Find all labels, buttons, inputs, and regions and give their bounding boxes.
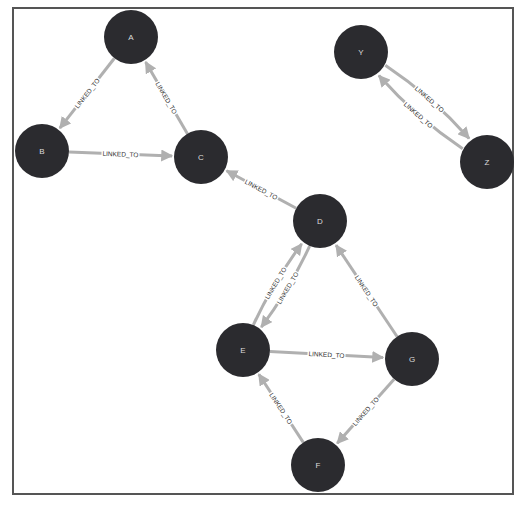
- node-label: G: [409, 355, 415, 364]
- node-label: E: [240, 346, 245, 355]
- edge-E-G[interactable]: LINKED_TO: [270, 349, 383, 359]
- edge-G-F[interactable]: LINKED_TO: [337, 379, 394, 443]
- node-B[interactable]: B: [15, 124, 69, 178]
- node-label: F: [316, 461, 321, 470]
- edge-F-E[interactable]: LINKED_TO: [259, 374, 303, 442]
- node-Y[interactable]: Y: [334, 25, 388, 79]
- edge-label: LINKED_TO: [154, 81, 179, 116]
- node-Z[interactable]: Z: [460, 135, 514, 189]
- edge-label: LINKED_TO: [267, 391, 293, 426]
- edge-label: LINKED_TO: [243, 178, 279, 202]
- edge-label: LINKED_TO: [353, 274, 380, 308]
- edge-E-D[interactable]: LINKED_TO: [253, 244, 301, 325]
- node-D[interactable]: D: [293, 194, 347, 248]
- node-G[interactable]: G: [385, 332, 439, 386]
- node-label: A: [128, 33, 134, 42]
- node-label: D: [317, 217, 323, 226]
- edge-A-B[interactable]: LINKED_TO: [60, 58, 115, 128]
- edge-D-C[interactable]: LINKED_TO: [227, 171, 297, 208]
- node-label: Z: [485, 158, 490, 167]
- edge-G-D[interactable]: LINKED_TO: [336, 245, 397, 336]
- node-A[interactable]: A: [104, 10, 158, 64]
- graph-svg: LINKED_TOLINKED_TOLINKED_TOLINKED_TOLINK…: [0, 0, 524, 507]
- node-label: B: [39, 147, 44, 156]
- node-E[interactable]: E: [216, 323, 270, 377]
- edge-label: LINKED_TO: [73, 77, 101, 110]
- edge-label: LINKED_TO: [351, 395, 381, 427]
- nodes-layer: ABCYZDEGF: [15, 10, 514, 492]
- node-label: C: [198, 153, 204, 162]
- edge-C-A[interactable]: LINKED_TO: [146, 62, 188, 134]
- node-C[interactable]: C: [174, 130, 228, 184]
- edge-B-C[interactable]: LINKED_TO: [69, 149, 172, 159]
- edge-label: LINKED_TO: [402, 100, 434, 130]
- node-label: Y: [358, 48, 364, 57]
- node-F[interactable]: F: [291, 438, 345, 492]
